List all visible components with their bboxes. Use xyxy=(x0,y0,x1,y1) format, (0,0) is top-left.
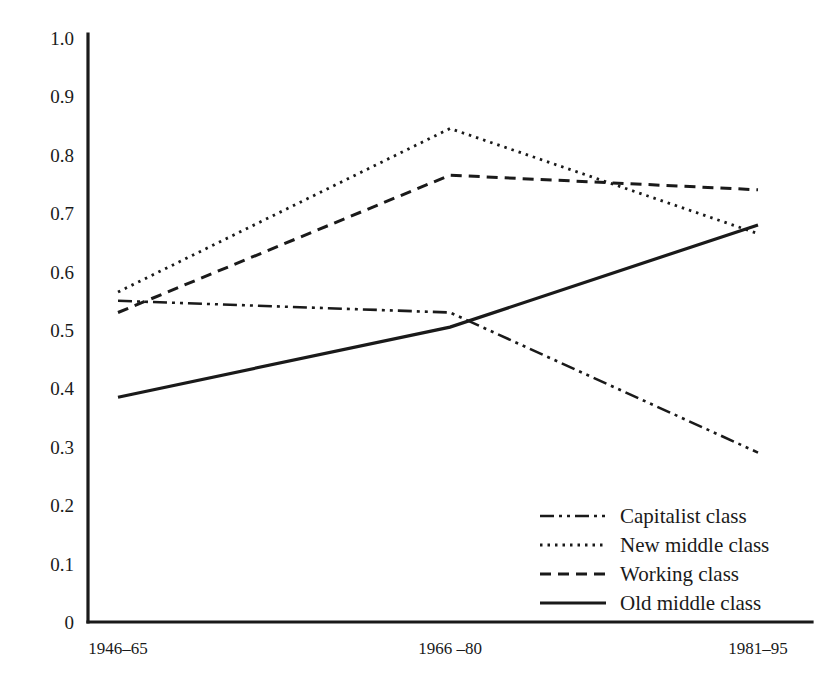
x-tick-label: 1966 –80 xyxy=(418,639,482,658)
y-tick-labels: 1.0 0.9 0.8 0.7 0.6 0.5 0.4 0.3 0.2 0.1 … xyxy=(50,28,74,633)
chart-canvas: 1.0 0.9 0.8 0.7 0.6 0.5 0.4 0.3 0.2 0.1 … xyxy=(0,0,818,689)
legend-label: Capitalist class xyxy=(620,504,747,528)
y-tick-label: 0.1 xyxy=(50,554,74,575)
y-tick-label: 0.8 xyxy=(50,145,74,166)
y-tick-label: 0.7 xyxy=(50,203,74,224)
chart-legend: Capitalist classNew middle classWorking … xyxy=(540,504,769,615)
y-tick-label: 0.9 xyxy=(50,86,74,107)
legend-label: Working class xyxy=(620,562,739,586)
series-line-new-middle-class xyxy=(118,129,758,293)
x-tick-label: 1981–95 xyxy=(728,639,788,658)
legend-label: Old middle class xyxy=(620,591,761,615)
y-tick-label: 0.3 xyxy=(50,437,74,458)
y-tick-label: 1.0 xyxy=(50,28,74,49)
legend-label: New middle class xyxy=(620,533,769,557)
y-tick-label: 0.5 xyxy=(50,320,74,341)
x-tick-label: 1946–65 xyxy=(88,639,148,658)
x-tick-labels: 1946–65 1966 –80 1981–95 xyxy=(88,639,788,658)
y-tick-label: 0 xyxy=(65,612,75,633)
line-chart: 1.0 0.9 0.8 0.7 0.6 0.5 0.4 0.3 0.2 0.1 … xyxy=(0,0,818,689)
y-tick-label: 0.2 xyxy=(50,495,74,516)
y-tick-label: 0.4 xyxy=(50,378,74,399)
y-tick-label: 0.6 xyxy=(50,262,74,283)
series-group xyxy=(118,129,758,453)
